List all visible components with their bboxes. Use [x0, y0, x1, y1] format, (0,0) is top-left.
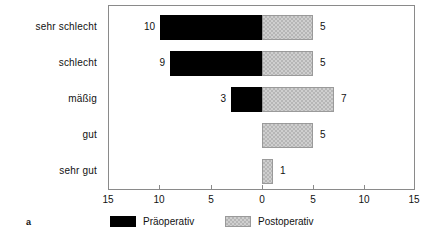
x-ticklabel-1: 10 [144, 195, 174, 205]
chart-legend: Präoperativ Postoperativ [0, 215, 444, 233]
legend-swatch-postoperativ [225, 216, 251, 227]
bar-post-gut [262, 123, 313, 148]
bar-chart-figure: sehr schlecht schlecht mäßig gut sehr gu… [0, 0, 444, 245]
x-tick-plus-15 [414, 185, 415, 190]
value-label-pre-maessig: 3 [202, 94, 226, 104]
x-ticklabel-0: 15 [93, 195, 123, 205]
x-tick-minus-15 [108, 185, 109, 190]
value-label-post-sehr-gut: 1 [280, 166, 304, 176]
bar-post-maessig [262, 87, 334, 112]
zero-stub-row-5 [262, 169, 263, 174]
x-tick-minus-10 [159, 185, 160, 190]
value-label-pre-sehr-schlecht: 10 [131, 22, 155, 32]
value-label-post-maessig: 7 [341, 94, 365, 104]
bars-layer: 10 5 9 5 3 7 5 1 [0, 0, 444, 245]
zero-stub-row-2 [262, 61, 263, 66]
x-tick-zero [262, 185, 263, 190]
x-ticklabel-6: 15 [399, 195, 429, 205]
zero-stub-row-1 [262, 25, 263, 30]
value-label-pre-schlecht: 9 [141, 58, 165, 68]
x-ticklabel-3: 0 [247, 195, 277, 205]
x-ticklabel-2: 5 [196, 195, 226, 205]
zero-stub-row-3 [262, 97, 263, 102]
x-tick-plus-10 [364, 185, 365, 190]
bar-post-sehr-schlecht [262, 15, 313, 40]
value-label-post-schlecht: 5 [320, 58, 344, 68]
x-ticklabel-4: 5 [298, 195, 328, 205]
legend-label-postoperativ: Postoperativ [258, 215, 314, 228]
x-tick-plus-5 [313, 185, 314, 190]
bar-post-sehr-gut [262, 159, 273, 184]
zero-stub-row-4 [262, 133, 263, 138]
value-label-post-gut: 5 [320, 130, 344, 140]
x-ticklabel-5: 10 [349, 195, 379, 205]
bar-post-schlecht [262, 51, 313, 76]
bar-pre-sehr-schlecht [160, 15, 262, 40]
x-tick-minus-5 [211, 185, 212, 190]
legend-swatch-praeoperativ [110, 216, 136, 227]
bar-pre-maessig [231, 87, 262, 112]
value-label-post-sehr-schlecht: 5 [320, 22, 344, 32]
legend-label-praeoperativ: Präoperativ [143, 215, 194, 228]
bar-pre-schlecht [170, 51, 262, 76]
